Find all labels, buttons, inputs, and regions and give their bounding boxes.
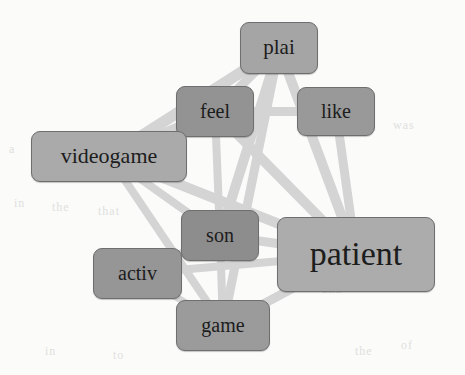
node-label: feel bbox=[200, 101, 230, 121]
node-videogame[interactable]: videogame bbox=[31, 131, 187, 182]
node-plai[interactable]: plai bbox=[240, 22, 318, 74]
node-son[interactable]: son bbox=[181, 210, 259, 261]
node-label: game bbox=[201, 315, 244, 335]
node-patient[interactable]: patient bbox=[277, 217, 435, 292]
node-activ[interactable]: activ bbox=[93, 248, 182, 299]
node-label: activ bbox=[118, 263, 157, 283]
node-label: videogame bbox=[61, 145, 158, 167]
node-label: like bbox=[321, 101, 351, 121]
node-label: plai bbox=[263, 37, 295, 58]
node-feel[interactable]: feel bbox=[176, 86, 254, 137]
node-like[interactable]: like bbox=[297, 87, 375, 136]
word-network-diagram: inthewasthataintoandofthe plaifeellikevi… bbox=[0, 0, 465, 375]
node-label: son bbox=[206, 225, 234, 245]
node-label: patient bbox=[310, 237, 403, 271]
node-game[interactable]: game bbox=[176, 300, 270, 351]
